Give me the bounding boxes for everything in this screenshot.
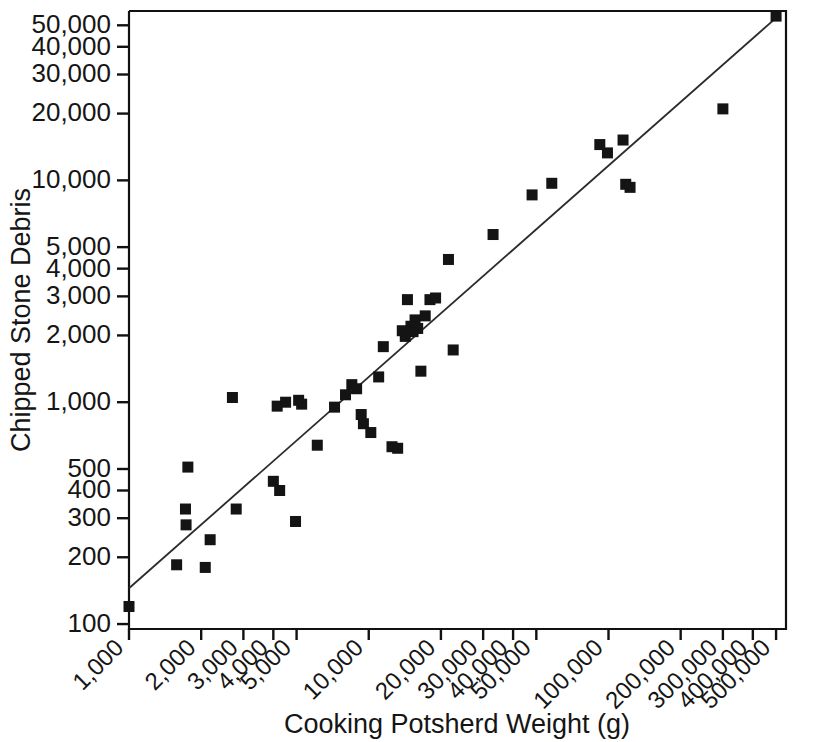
data-point-marker — [182, 462, 193, 473]
y-axis-title: Chipped Stone Debris — [6, 188, 36, 452]
data-point-marker — [124, 601, 135, 612]
data-point-marker — [602, 147, 613, 158]
data-point-marker — [443, 254, 454, 265]
data-point-marker — [200, 562, 211, 573]
y-tick-label: 300 — [68, 502, 111, 532]
y-tick-label: 2,000 — [46, 319, 111, 349]
y-tick-label: 3,000 — [46, 280, 111, 310]
data-point-marker — [181, 519, 192, 530]
data-point-marker — [420, 310, 431, 321]
data-point-marker — [205, 534, 216, 545]
data-point-marker — [618, 135, 629, 146]
data-point-marker — [392, 443, 403, 454]
scatter-chart-figure: 1002003004005001,0002,0003,0004,0005,000… — [0, 0, 829, 742]
data-point-marker — [412, 323, 423, 334]
y-tick-label: 100 — [68, 608, 111, 638]
chart-canvas: 1002003004005001,0002,0003,0004,0005,000… — [0, 0, 829, 742]
y-tick-label: 20,000 — [31, 97, 111, 127]
data-point-marker — [340, 389, 351, 400]
y-tick-label: 50,000 — [31, 9, 111, 39]
data-point-marker — [329, 402, 340, 413]
data-point-marker — [625, 182, 636, 193]
data-point-marker — [488, 229, 499, 240]
chart-background — [0, 0, 829, 742]
data-point-marker — [771, 11, 782, 22]
data-point-marker — [312, 440, 323, 451]
data-point-marker — [546, 178, 557, 189]
data-point-marker — [402, 294, 413, 305]
data-point-marker — [527, 189, 538, 200]
data-point-marker — [171, 559, 182, 570]
y-tick-label: 500 — [68, 453, 111, 483]
data-point-marker — [378, 341, 389, 352]
x-axis-title: Cooking Potsherd Weight (g) — [284, 709, 630, 739]
data-point-marker — [280, 397, 291, 408]
data-point-marker — [227, 392, 238, 403]
data-point-marker — [448, 344, 459, 355]
y-tick-label: 5,000 — [46, 231, 111, 261]
data-point-marker — [180, 504, 191, 515]
y-tick-label: 200 — [68, 541, 111, 571]
data-point-marker — [415, 366, 426, 377]
data-point-marker — [274, 485, 285, 496]
data-point-marker — [373, 371, 384, 382]
data-point-marker — [296, 399, 307, 410]
data-point-marker — [351, 383, 362, 394]
data-point-marker — [231, 504, 242, 515]
data-point-marker — [430, 292, 441, 303]
data-point-marker — [717, 103, 728, 114]
data-point-marker — [365, 427, 376, 438]
y-tick-label: 30,000 — [31, 58, 111, 88]
y-tick-label: 10,000 — [31, 164, 111, 194]
data-point-marker — [290, 516, 301, 527]
y-tick-label: 1,000 — [46, 386, 111, 416]
